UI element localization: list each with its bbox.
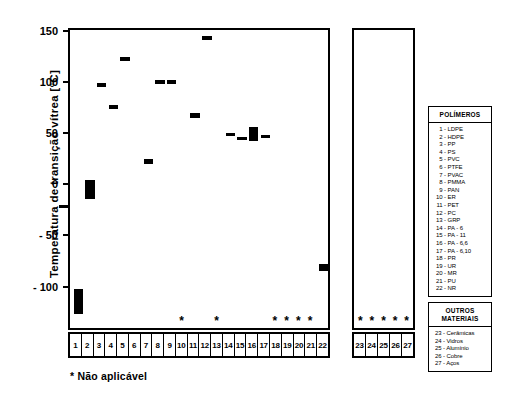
legend-item-number: 22 - (435, 285, 446, 293)
legend-item-number: 24 - (434, 338, 445, 346)
category-cell-16[interactable]: 16 (246, 334, 258, 356)
legend-item-pa-6-6: 16 - PA - 6,6 (429, 240, 491, 248)
category-cell-15[interactable]: 15 (235, 334, 247, 356)
figure-glass-transition-chart: Temperatura de transição vítrea [°C] 150… (0, 0, 507, 401)
category-cell-19[interactable]: 19 (282, 334, 294, 356)
legend-item-number: 21 - (435, 278, 446, 286)
legend-item-number: 19 - (435, 263, 446, 271)
category-cell-1[interactable]: 1 (70, 334, 82, 356)
legend-item-label: UR (446, 263, 456, 269)
legend-item-label: LDPE (446, 126, 463, 132)
legend-item-number: 4 - (435, 149, 446, 157)
legend-box-polymers: POLÍMEROS 1 - LDPE2 - HDPE3 - PP4 - PS5 … (428, 106, 492, 297)
category-cell-9[interactable]: 9 (164, 334, 176, 356)
legend-item-label: PA - 11 (446, 232, 466, 238)
category-axis-other-materials: 2324252627 (352, 332, 415, 358)
legend-item-number: 25 - (434, 345, 445, 353)
legend-item-ptfe: 6 - PTFE (429, 164, 491, 172)
legend-item-number: 11 - (435, 202, 446, 210)
legend-item-number: 1 - (435, 126, 446, 134)
legend-item-mr: 20 - MR (429, 270, 491, 278)
legend-item-number: 8 - (435, 179, 446, 187)
legend-item-number: 12 - (435, 210, 446, 218)
legend-item-pa-6: 14 - PA - 6 (429, 225, 491, 233)
category-cell-21[interactable]: 21 (305, 334, 317, 356)
legend-item-label: PC (446, 210, 456, 216)
legend-item-pmma: 8 - PMMA (429, 179, 491, 187)
legend-item-label: PTFE (446, 164, 463, 170)
legend-item-label: Aços (445, 360, 459, 366)
legend-item-number: 13 - (435, 217, 446, 225)
legend-item-pc: 12 - PC (429, 210, 491, 218)
legend-header-line2: MATERIAIS (429, 315, 491, 323)
legend-item-pp: 3 - PP (429, 141, 491, 149)
category-cell-3[interactable]: 3 (94, 334, 106, 356)
category-cell-27[interactable]: 27 (402, 334, 413, 356)
legend-item-label: PA - 6,6 (446, 240, 468, 246)
not-applicable-asterisk-26: * (389, 316, 401, 326)
category-cell-11[interactable]: 11 (188, 334, 200, 356)
category-cell-6[interactable]: 6 (129, 334, 141, 356)
legend-item-cobre: 26 - Cobre (429, 353, 491, 361)
legend-item-alum-nio: 25 - Alumínio (429, 345, 491, 353)
legend-item-ldpe: 1 - LDPE (429, 126, 491, 134)
legend-item-pvac: 7 - PVAC (429, 172, 491, 180)
legend-item-label: HDPE (446, 134, 464, 140)
legend-item-label: PAN (446, 187, 459, 193)
legend-item-pa-6-10: 17 - PA - 6,10 (429, 248, 491, 256)
category-cell-22[interactable]: 22 (317, 334, 328, 356)
legend-item-label: GRP (446, 217, 460, 223)
legend-item-number: 18 - (435, 255, 446, 263)
legend-list-other-materials: 23 - Cerâmicas24 - Vidros25 - Alumínio26… (429, 327, 491, 371)
category-cell-20[interactable]: 20 (294, 334, 306, 356)
legend-item-pan: 9 - PAN (429, 187, 491, 195)
legend-item-pr: 18 - PR (429, 255, 491, 263)
legend-item-label: PR (446, 255, 456, 261)
legend-item-label: Cerâmicas (445, 330, 474, 336)
legend-header-polymers: POLÍMEROS (429, 107, 491, 123)
legend-box-other-materials: OUTROS MATERIAIS 23 - Cerâmicas24 - Vidr… (428, 302, 492, 372)
legend-item-number: 26 - (434, 353, 445, 361)
category-cell-18[interactable]: 18 (270, 334, 282, 356)
legend-item-number: 6 - (435, 164, 446, 172)
legend-item-label: PVAC (446, 172, 463, 178)
category-cell-10[interactable]: 10 (176, 334, 188, 356)
legend-item-pu: 21 - PU (429, 278, 491, 286)
legend-item-label: Alumínio (445, 345, 469, 351)
legend-item-label: PA - 6,10 (446, 248, 471, 254)
category-cell-4[interactable]: 4 (105, 334, 117, 356)
category-cell-8[interactable]: 8 (152, 334, 164, 356)
footnote-not-applicable: * Não aplicável (70, 370, 147, 382)
category-cell-24[interactable]: 24 (366, 334, 378, 356)
legend-item-vidros: 24 - Vidros (429, 338, 491, 346)
legend-item-cer-micas: 23 - Cerâmicas (429, 330, 491, 338)
category-cell-7[interactable]: 7 (141, 334, 153, 356)
category-cell-17[interactable]: 17 (258, 334, 270, 356)
legend-item-number: 27 - (434, 360, 445, 368)
category-cell-2[interactable]: 2 (82, 334, 94, 356)
category-cell-5[interactable]: 5 (117, 334, 129, 356)
legend-item-number: 7 - (435, 172, 446, 180)
legend-item-number: 9 - (435, 187, 446, 195)
legend-item-number: 23 - (434, 330, 445, 338)
legend-header-line1: OUTROS (429, 307, 491, 315)
legend-item-number: 15 - (435, 232, 446, 240)
category-cell-26[interactable]: 26 (390, 334, 402, 356)
category-cell-13[interactable]: 13 (211, 334, 223, 356)
not-applicable-asterisk-25: * (378, 316, 390, 326)
legend-item-label: PVC (446, 156, 460, 162)
not-applicable-asterisk-27: * (401, 316, 413, 326)
category-cell-25[interactable]: 25 (378, 334, 390, 356)
legend-item-number: 2 - (435, 134, 446, 142)
legend-item-number: 3 - (435, 141, 446, 149)
legend-item-number: 20 - (435, 270, 446, 278)
legend-item-number: 14 - (435, 225, 446, 233)
legend-item-ur: 19 - UR (429, 263, 491, 271)
legend-item-number: 16 - (435, 240, 446, 248)
category-cell-14[interactable]: 14 (223, 334, 235, 356)
category-cell-12[interactable]: 12 (199, 334, 211, 356)
category-cell-23[interactable]: 23 (354, 334, 366, 356)
legend-item-pet: 11 - PET (429, 202, 491, 210)
legend-header-other-materials: OUTROS MATERIAIS (429, 303, 491, 327)
legend-item-number: 10 - (435, 194, 446, 202)
